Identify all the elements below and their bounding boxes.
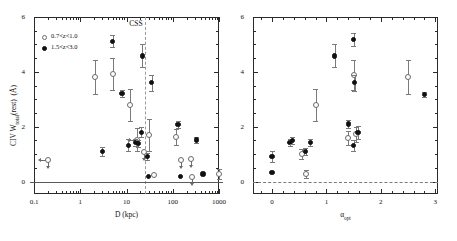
x-minor-tick: [119, 17, 120, 20]
css-annotation: CSS: [129, 19, 142, 28]
y-minor-tick: [34, 86, 37, 87]
x-minor-tick: [116, 191, 117, 194]
open-circle-icon: [42, 35, 47, 40]
x-minor-tick: [140, 191, 141, 194]
y-minor-tick: [253, 44, 256, 45]
data-point-highz: [136, 141, 141, 146]
x-minor-tick: [62, 17, 63, 20]
x-minor-tick: [76, 191, 77, 194]
error-bar-cap: [332, 67, 337, 68]
error-bar-cap: [149, 91, 154, 92]
x-minor-tick: [403, 17, 404, 20]
x-minor-tick: [370, 17, 371, 20]
y-tick-label: 2: [241, 123, 245, 131]
y-minor-tick: [253, 154, 256, 155]
x-minor-tick: [73, 17, 74, 20]
data-point-highz: [308, 140, 313, 145]
legend-label-highz: 1.5<z<3.0: [51, 43, 77, 50]
x-minor-tick: [124, 17, 125, 20]
x-minor-tick: [159, 191, 160, 194]
data-point-highz: [422, 92, 427, 97]
error-bar-cap: [149, 75, 154, 76]
y-minor-tick: [253, 168, 256, 169]
y-major-tick: [433, 127, 438, 128]
x-minor-tick: [187, 17, 188, 20]
x-minor-tick: [124, 191, 125, 194]
x-minor-tick: [414, 191, 415, 194]
x-minor-tick: [283, 191, 284, 194]
x-major-tick: [127, 17, 128, 22]
x-major-tick: [173, 17, 174, 22]
data-point-lowz: [110, 71, 116, 77]
data-point-highz: [110, 39, 115, 44]
y-tick-label: 4: [22, 68, 26, 76]
x-minor-tick: [209, 191, 210, 194]
error-bar-cap: [136, 147, 141, 148]
x-tick-label: 3: [434, 198, 438, 206]
x-major-tick: [381, 189, 382, 194]
upper-limit-arrow-head: [190, 183, 194, 186]
data-point-highz: [140, 53, 145, 58]
y-minor-tick: [34, 113, 37, 114]
x-major-tick: [272, 189, 273, 194]
panel-left: CIV Wtotal(rest) (Å) D (kpc) CSS 0.7<z<1…: [0, 0, 230, 241]
error-bar-cap: [139, 127, 144, 128]
y-major-tick: [253, 17, 258, 18]
x-tick-label: 1: [325, 198, 329, 206]
y-major-tick: [433, 17, 438, 18]
x-minor-tick: [76, 17, 77, 20]
legend-label-lowz: 0.7<z<1.0: [51, 32, 77, 39]
y-tick-label: 6: [22, 13, 26, 21]
y-minor-tick: [435, 44, 438, 45]
error-bar-cap: [176, 128, 181, 129]
error-bar-cap: [100, 156, 105, 157]
y-minor-tick: [216, 140, 219, 141]
error-bar-cap: [308, 146, 313, 147]
error-bar-cap: [110, 47, 115, 48]
x-minor-tick: [162, 191, 163, 194]
reference-line-vertical: [145, 17, 146, 194]
x-minor-tick: [305, 17, 306, 20]
x-minor-tick: [392, 191, 393, 194]
y-major-tick: [214, 127, 219, 128]
error-bar-cap: [351, 140, 356, 141]
data-point-highz: [200, 171, 205, 176]
y-minor-tick: [34, 168, 37, 169]
x-minor-tick: [215, 191, 216, 194]
x-major-tick: [435, 189, 436, 194]
y-minor-tick: [435, 31, 438, 32]
error-bar-cap: [135, 151, 140, 152]
x-minor-tick: [212, 17, 213, 20]
error-bar-cap: [352, 75, 357, 76]
error-bar-cap: [356, 139, 361, 140]
x-minor-tick: [149, 17, 150, 20]
x-minor-tick: [119, 191, 120, 194]
x-minor-tick: [305, 191, 306, 194]
limit-arrow-head-left: [38, 158, 41, 162]
error-bar-cap: [217, 169, 222, 170]
data-point-highz: [194, 137, 199, 142]
error-bar-cap: [110, 35, 115, 36]
error-bar-cap: [174, 145, 179, 146]
y-major-tick: [34, 127, 39, 128]
x-minor-tick: [113, 191, 114, 194]
y-tick-label: 4: [241, 68, 245, 76]
x-minor-tick: [62, 191, 63, 194]
y-minor-tick: [253, 113, 256, 114]
error-bar-cap: [120, 97, 125, 98]
error-bar-cap: [128, 89, 133, 90]
x-minor-tick: [154, 191, 155, 194]
figure-root: CIV Wtotal(rest) (Å) D (kpc) CSS 0.7<z<1…: [0, 0, 457, 241]
error-bar-cap: [93, 94, 98, 95]
error-bar-cap: [110, 90, 115, 91]
data-point-highz: [119, 91, 124, 96]
y-major-tick: [214, 72, 219, 73]
x-minor-tick: [370, 191, 371, 194]
error-bar-cap: [346, 131, 351, 132]
x-minor-tick: [337, 191, 338, 194]
y-tick-label: 2: [22, 123, 26, 131]
x-minor-tick: [73, 191, 74, 194]
x-minor-tick: [359, 17, 360, 20]
x-minor-tick: [78, 17, 79, 20]
upper-limit-arrow-head: [179, 166, 183, 169]
